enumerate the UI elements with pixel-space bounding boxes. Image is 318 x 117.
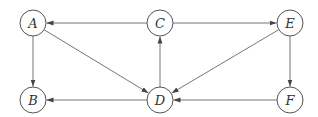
node-label: F xyxy=(284,93,295,108)
node-c: C xyxy=(147,10,173,36)
node-label: A xyxy=(27,16,37,31)
node-label: E xyxy=(284,16,295,31)
node-f: F xyxy=(277,87,303,113)
edge-a-to-d xyxy=(44,30,148,93)
node-e: E xyxy=(277,10,303,36)
node-label: C xyxy=(155,16,165,31)
node-b: B xyxy=(20,87,46,113)
node-label: D xyxy=(154,93,166,108)
node-label: B xyxy=(27,93,38,108)
directed-graph: ACEBDF xyxy=(0,0,318,117)
node-a: A xyxy=(20,10,46,36)
node-d: D xyxy=(147,87,173,113)
nodes-layer: ACEBDF xyxy=(20,10,303,113)
edge-e-to-d xyxy=(172,30,279,93)
